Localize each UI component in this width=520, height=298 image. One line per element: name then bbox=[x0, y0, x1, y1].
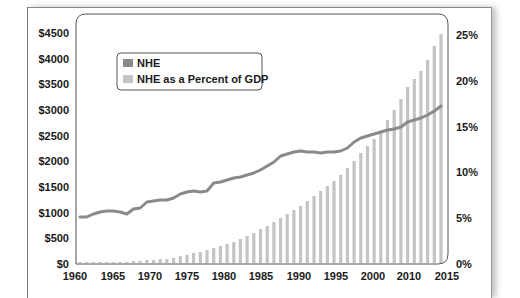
nhe-bar bbox=[152, 260, 155, 263]
nhe-bar bbox=[406, 87, 409, 263]
nhe-bar bbox=[112, 262, 115, 263]
nhe-bar bbox=[386, 120, 389, 263]
x-tick-label: 1975 bbox=[175, 270, 199, 282]
x-tick-label: 1980 bbox=[212, 270, 236, 282]
nhe-bar bbox=[319, 191, 322, 263]
nhe-bar bbox=[165, 259, 168, 263]
nhe-bar bbox=[426, 60, 429, 263]
nhe-bar bbox=[205, 250, 208, 263]
nhe-bar bbox=[339, 175, 342, 263]
x-tick-label: 1990 bbox=[287, 270, 311, 282]
legend-label-nhe: NHE bbox=[137, 57, 160, 69]
x-tick-label: 1985 bbox=[249, 270, 273, 282]
x-tick-label: 1970 bbox=[138, 270, 162, 282]
y-right-tick-label: 20% bbox=[456, 75, 478, 87]
nhe-bar bbox=[413, 79, 416, 263]
nhe-bar bbox=[373, 139, 376, 263]
y-right-tick-label: 0% bbox=[456, 258, 472, 270]
y-left-tick-label: $0 bbox=[57, 258, 69, 270]
nhe-bar bbox=[326, 186, 329, 263]
nhe-bar bbox=[359, 153, 362, 263]
nhe-bar bbox=[306, 201, 309, 263]
plot-area-border bbox=[76, 14, 448, 264]
nhe-bar bbox=[399, 99, 402, 263]
nhe-bar bbox=[139, 261, 142, 263]
nhe-bar bbox=[99, 262, 102, 263]
y-left-tick-label: $3000 bbox=[38, 104, 69, 116]
y-left-tick-label: $1000 bbox=[38, 207, 69, 219]
nhe-bar bbox=[185, 255, 188, 263]
x-tick-label: 2010 bbox=[397, 270, 421, 282]
nhe-bar bbox=[279, 218, 282, 263]
nhe-bar bbox=[272, 222, 275, 263]
nhe-bar bbox=[212, 248, 215, 263]
nhe-bar bbox=[219, 246, 222, 263]
nhe-bar bbox=[78, 262, 81, 263]
y-left-tick-label: $2000 bbox=[38, 155, 69, 167]
nhe-bar bbox=[92, 262, 95, 263]
nhe-bar bbox=[239, 239, 242, 263]
nhe-bar bbox=[226, 244, 229, 263]
y-left-tick-label: $1500 bbox=[38, 181, 69, 193]
nhe-bar bbox=[379, 131, 382, 263]
y-right-tick-label: 15% bbox=[456, 121, 478, 133]
nhe-bar bbox=[299, 206, 302, 263]
nhe-bar bbox=[433, 46, 436, 263]
nhe-bar bbox=[159, 259, 162, 263]
y-axis-left: $0$500$1000$1500$2000$2500$3000$3500$400… bbox=[38, 27, 69, 270]
y-right-tick-label: 25% bbox=[456, 29, 478, 41]
nhe-bar bbox=[353, 161, 356, 263]
y-left-tick-label: $3500 bbox=[38, 78, 69, 90]
y-left-tick-label: $4000 bbox=[38, 53, 69, 65]
nhe-bar bbox=[192, 253, 195, 263]
y-right-tick-label: 10% bbox=[456, 166, 478, 178]
nhe-bar bbox=[252, 233, 255, 263]
nhe-bar bbox=[286, 214, 289, 263]
legend: NHE NHE as a Percent of GDP bbox=[117, 53, 268, 90]
nhe-bar bbox=[125, 262, 128, 263]
x-tick-label: 1995 bbox=[324, 270, 348, 282]
nhe-bar bbox=[332, 181, 335, 263]
nhe-bar bbox=[119, 262, 122, 263]
y-axis-right: 0%5%10%15%20%25% bbox=[456, 29, 478, 270]
y-left-tick-label: $2500 bbox=[38, 130, 69, 142]
nhe-bar bbox=[312, 196, 315, 263]
legend-swatch-nhe bbox=[123, 59, 133, 67]
nhe-bar bbox=[259, 229, 262, 263]
y-right-tick-label: 5% bbox=[456, 212, 472, 224]
nhe-bar bbox=[232, 242, 235, 263]
x-tick-label: 1960 bbox=[63, 270, 87, 282]
y-left-tick-label: $500 bbox=[45, 232, 69, 244]
nhe-bar bbox=[105, 262, 108, 263]
nhe-bar bbox=[292, 210, 295, 263]
nhe-bar bbox=[145, 260, 148, 263]
nhe-bar bbox=[366, 146, 369, 263]
x-tick-label: 2000 bbox=[361, 270, 385, 282]
nhe-bar bbox=[132, 261, 135, 263]
nhe-bar bbox=[246, 236, 249, 263]
x-tick-label: 2015 bbox=[435, 270, 459, 282]
nhe-bar bbox=[199, 252, 202, 263]
x-axis: 1960196519701975198019851990199520002010… bbox=[63, 270, 459, 282]
nhe-bar bbox=[419, 71, 422, 263]
nhe-bar bbox=[179, 256, 182, 263]
nhe-bar bbox=[172, 258, 175, 263]
nhe-bar bbox=[439, 34, 442, 263]
legend-swatch-nhe-percent-gdp bbox=[123, 75, 133, 83]
y-left-tick-label: $4500 bbox=[38, 27, 69, 39]
nhe-bar bbox=[85, 262, 88, 263]
nhe-bar bbox=[266, 226, 269, 263]
nhe-bar bbox=[393, 110, 396, 263]
legend-label-nhe-percent-gdp: NHE as a Percent of GDP bbox=[137, 73, 268, 85]
x-tick-label: 1965 bbox=[101, 270, 125, 282]
nhe-bar bbox=[346, 168, 349, 263]
